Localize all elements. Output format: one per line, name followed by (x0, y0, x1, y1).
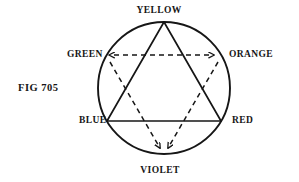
figure-caption: FIG 705 (18, 83, 59, 94)
vertex-label-yellow: YELLOW (136, 6, 181, 16)
vertex-label-green: GREEN (67, 50, 103, 60)
vertex-label-orange: ORANGE (229, 50, 273, 60)
color-wheel-circle (98, 22, 230, 154)
vertex-label-violet: VIOLET (140, 166, 179, 176)
secondary-triangle-dashed (110, 55, 218, 148)
vertex-label-red: RED (232, 116, 253, 126)
primary-triangle-solid (107, 22, 221, 121)
figure-color-wheel: YELLOW GREEN ORANGE BLUE RED VIOLET FIG … (0, 0, 299, 182)
vertex-label-blue: BLUE (79, 116, 106, 126)
